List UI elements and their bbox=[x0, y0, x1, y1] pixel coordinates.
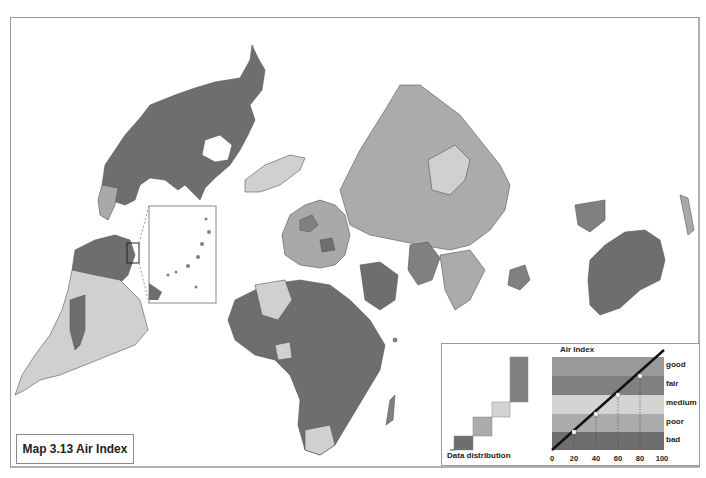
data-distribution-label: Data distribution bbox=[447, 451, 511, 460]
caribbean-inset-box bbox=[149, 206, 216, 303]
map-title: Map 3.13 Air Index bbox=[16, 434, 134, 464]
region-australia bbox=[588, 230, 665, 315]
x-tick-60: 60 bbox=[608, 454, 628, 463]
legend-class-fair: fair bbox=[666, 379, 678, 388]
region-greenland bbox=[245, 155, 305, 192]
legend-graphic bbox=[442, 344, 701, 467]
data-distribution-chart bbox=[450, 357, 528, 450]
region-north-america bbox=[102, 45, 265, 205]
region-middle-east bbox=[360, 262, 398, 310]
legend-class-medium: medium bbox=[666, 398, 697, 407]
x-tick-0: 0 bbox=[542, 454, 562, 463]
legend-class-good: good bbox=[666, 360, 686, 369]
legend-panel: Air Index g bbox=[441, 343, 700, 466]
x-tick-40: 40 bbox=[586, 454, 606, 463]
region-russia bbox=[340, 85, 510, 250]
region-europe bbox=[282, 200, 350, 268]
x-tick-80: 80 bbox=[630, 454, 650, 463]
x-tick-20: 20 bbox=[564, 454, 584, 463]
region-africa bbox=[228, 280, 385, 455]
x-tick-100: 100 bbox=[652, 454, 672, 463]
legend-class-bad: bad bbox=[666, 435, 680, 444]
legend-class-poor: poor bbox=[666, 417, 684, 426]
